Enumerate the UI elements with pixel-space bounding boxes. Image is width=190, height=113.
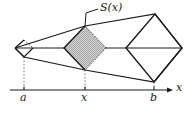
x-axis — [10, 87, 173, 93]
cross-section-s-of-x — [64, 26, 106, 70]
axis-label-a: a — [20, 92, 27, 103]
axis-label-x: x — [81, 92, 87, 103]
cross-section-a-visible-edges — [15, 48, 33, 57]
cross-section-volume-diagram — [0, 0, 190, 113]
x-axis-label: x — [176, 82, 182, 93]
axis-label-b: b — [150, 92, 157, 103]
x-axis-arrowhead — [167, 88, 173, 93]
cross-section-label: S(x) — [100, 2, 122, 13]
cross-section-s-of-x-fill — [64, 26, 106, 70]
